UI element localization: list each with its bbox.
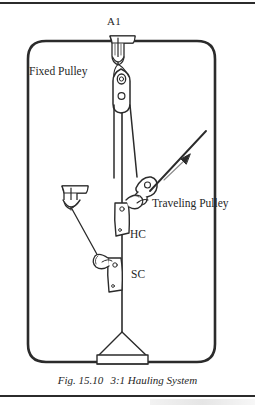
label-fixed-pulley: Fixed Pulley [29, 66, 87, 78]
litter-icon [97, 332, 148, 364]
figure-page: A1 Fixed Pulley Traveling Pulley HC SC F… [0, 0, 255, 408]
caption-number: Fig. 15.10 [58, 374, 104, 386]
caption-title: 3:1 Hauling System [110, 374, 197, 386]
figure-caption: Fig. 15.103:1 Hauling System [0, 374, 255, 386]
label-anchor-a1: A1 [107, 16, 121, 27]
arrow-up-right-icon [164, 154, 190, 180]
label-haul-cam: HC [130, 229, 146, 241]
rope-grab-icon-sc [93, 254, 122, 292]
rope-right-leg [130, 105, 137, 177]
haul-line [150, 131, 206, 191]
anchor-icon-top [110, 36, 135, 65]
anchor-icon-left [62, 186, 88, 210]
pulley-icon-fixed [113, 64, 130, 113]
label-safety-cam: SC [131, 269, 145, 281]
label-traveling-pulley: Traveling Pulley [152, 198, 229, 210]
rope-safety-tether [72, 209, 99, 258]
